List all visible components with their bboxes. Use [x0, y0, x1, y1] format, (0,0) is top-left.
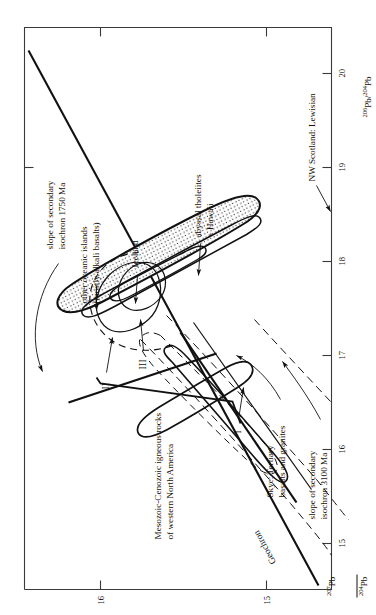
- y-tick-15: 15: [261, 596, 271, 605]
- isochron-3100-line: [180, 322, 311, 502]
- leader-nw-scotland: [316, 185, 330, 211]
- isochron-1750-label-line2: isochron 1750 Ma: [56, 182, 67, 249]
- x-axis-base-pb: Pb/: [362, 95, 372, 107]
- x-tick-16: 16: [336, 445, 346, 454]
- skye-label-line1: Skye: Tertiary: [264, 445, 275, 497]
- abyssal-tholeiites-label-line1: abyssal tholeiites: [192, 174, 203, 237]
- isochron-3100-label-line1: slope of secondary: [306, 450, 317, 519]
- y-axis-fraction: 207Pb 204Pb: [307, 575, 376, 598]
- y-axis-sup-204: 204: [356, 586, 363, 596]
- x-axis-sup-204: 204: [360, 85, 367, 95]
- other-oceanic-islands-label-line1: other oceanic islands: [78, 226, 89, 303]
- nw-scotland-label: NW Scotland: Lewisian: [306, 93, 317, 181]
- mesozoic-cenozoic-label-line1: Mesozoic-Cenozoic igneous rocks: [152, 412, 163, 539]
- y-axis-num-pb: Pb: [326, 576, 336, 586]
- y-axis-title: 207Pb 204Pb: [296, 575, 376, 615]
- x-tick-17: 17: [336, 351, 346, 360]
- isochron-3100-label-line2: isochron 3100 Ma: [318, 452, 329, 519]
- x-tick-18: 18: [336, 257, 346, 266]
- abyssal-tholeiites-label-line2: + Hawaii: [204, 203, 215, 237]
- y-axis-ticks-right: [100, 27, 266, 36]
- field-marker-I: I: [232, 430, 243, 433]
- other-oceanic-islands-label-line2: (mostly alkali basalts): [90, 222, 101, 303]
- isochron-1750-label-line1: slope of secondary: [44, 180, 55, 249]
- y-axis-numerator: 207Pb: [325, 575, 336, 598]
- x-tick-20: 20: [336, 69, 346, 78]
- y-axis-denominator: 204Pb: [356, 575, 368, 598]
- x-tick-15: 15: [336, 539, 346, 548]
- skye-label-line2: basalts and granites: [276, 425, 287, 497]
- field-marker-II: II: [100, 382, 111, 389]
- x-axis-sup-206: 206: [360, 107, 367, 117]
- y-tick-16: 16: [95, 596, 105, 605]
- x-tick-19: 19: [336, 163, 346, 172]
- x-axis-base-pb2: Pb: [362, 76, 372, 86]
- leader-field-II: [106, 337, 112, 372]
- y-axis-den-pb: Pb: [358, 576, 368, 586]
- y-axis-sup-207: 207: [324, 586, 331, 596]
- x-axis-title: 206Pb/204Pb: [349, 76, 376, 135]
- iceland-label: Iceland: [129, 240, 140, 267]
- field-marker-III: III: [137, 359, 148, 369]
- y-axis-ticks: [100, 580, 266, 589]
- leader-isochron-1750: [35, 263, 58, 371]
- mesozoic-cenozoic-label-line2: of western North America: [164, 443, 175, 539]
